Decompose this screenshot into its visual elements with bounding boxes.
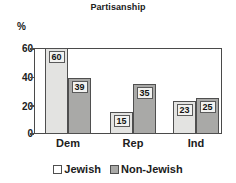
- legend-item-nonjewish: Non-Jewish: [110, 163, 183, 175]
- legend-item-jewish: Jewish: [53, 163, 101, 175]
- x-label-ind: Ind: [173, 137, 219, 149]
- legend-swatch-jewish-icon: [53, 165, 62, 174]
- legend-label-nonjewish: Non-Jewish: [121, 163, 183, 175]
- bar-value-ind-nonjewish: 25: [200, 101, 216, 113]
- bar-value-dem-nonjewish: 39: [72, 81, 88, 93]
- x-label-dem: Dem: [45, 137, 91, 149]
- bar-value-rep-nonjewish: 35: [137, 87, 153, 99]
- bar-value-rep-jewish: 15: [114, 115, 130, 127]
- x-label-rep: Rep: [110, 137, 156, 149]
- chart-legend: Jewish Non-Jewish: [0, 163, 236, 175]
- partisanship-bar-chart: Partisanship % 60 40 20 0 60 39 15 35 23…: [0, 0, 236, 183]
- legend-swatch-nonjewish-icon: [110, 165, 119, 174]
- legend-label-jewish: Jewish: [64, 163, 101, 175]
- bar-value-ind-jewish: 23: [177, 104, 193, 116]
- chart-title: Partisanship: [0, 2, 236, 12]
- bar-value-dem-jewish: 60: [49, 51, 65, 63]
- y-axis-unit-label: %: [17, 21, 26, 32]
